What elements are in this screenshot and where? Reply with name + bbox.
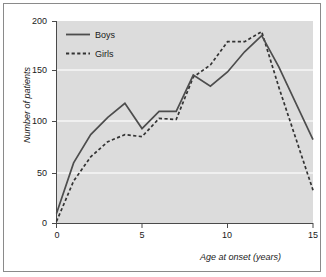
y-axis-title: Number of patients [22, 55, 32, 155]
figure-border: 200 150 100 50 0 0 5 10 15 Number of pat… [3, 3, 321, 272]
y-tick-label-0: 0 [23, 218, 47, 228]
y-tick-label-50: 50 [23, 168, 47, 178]
x-tick-label-15: 15 [303, 230, 323, 240]
legend-label-boys: Boys [95, 30, 115, 40]
legend-label-girls: Girls [95, 49, 114, 59]
figure-container: 200 150 100 50 0 0 5 10 15 Number of pat… [0, 0, 326, 277]
x-tick-label-10: 10 [217, 230, 237, 240]
x-axis-title: Age at onset (years) [200, 252, 281, 262]
x-tick-label-0: 0 [47, 230, 67, 240]
y-tick-label-200: 200 [23, 16, 47, 26]
x-tick-label-5: 5 [132, 230, 152, 240]
y-axis-ticks [52, 22, 56, 224]
